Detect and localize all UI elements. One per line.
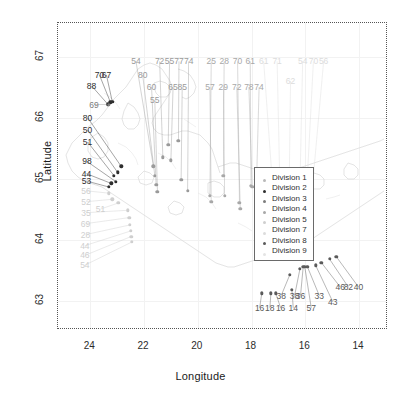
- point-value-label: 72: [155, 57, 164, 66]
- point-value-label: 36: [296, 291, 305, 300]
- point-value-label: 56: [319, 57, 328, 66]
- leader-line: [171, 87, 173, 160]
- point-value-label: 54: [298, 57, 307, 66]
- point-value-label: 55: [165, 57, 174, 66]
- x-tick-label: 20: [185, 340, 209, 351]
- leader-line: [312, 61, 324, 190]
- point-value-label: 70: [309, 57, 318, 66]
- x-tick-label: 22: [131, 340, 155, 351]
- point-value-label: 25: [207, 57, 216, 66]
- point-value-label: 61: [259, 57, 268, 66]
- leader-line: [85, 242, 132, 265]
- legend-item[interactable]: Division 9: [259, 246, 307, 257]
- point-value-label: 70: [233, 57, 242, 66]
- point-value-label: 35: [81, 208, 90, 217]
- point-value-label: 54: [131, 57, 140, 66]
- point-value-label: 57: [307, 304, 316, 313]
- point-value-label: 80: [83, 113, 92, 122]
- legend-item-label: Division 5: [272, 215, 307, 224]
- point-value-label: 65: [168, 83, 177, 92]
- legend-item-label: Division 2: [272, 183, 307, 192]
- point-value-label: 61: [245, 57, 254, 66]
- leader-line: [178, 61, 179, 140]
- x-tick-label: 18: [239, 340, 263, 351]
- point-value-label: 51: [83, 138, 92, 147]
- point-value-label: 43: [328, 298, 337, 307]
- point-value-label: 46: [80, 251, 89, 260]
- legend-item-label: Division 8: [272, 236, 307, 245]
- leader-line: [181, 87, 182, 180]
- point-value-label: 16: [276, 304, 285, 313]
- point-value-label: 50: [83, 126, 92, 135]
- legend-item-label: Division 4: [272, 204, 307, 213]
- figure-root: Latitude Longitude 6766656463 2422201816…: [0, 0, 401, 400]
- y-tick-label: 66: [34, 105, 45, 127]
- y-tick-label: 65: [34, 166, 45, 188]
- point-value-label: 60: [147, 83, 156, 92]
- plot-area: 8870676980505198445356525135692844465454…: [57, 22, 387, 329]
- leader-line: [160, 61, 163, 157]
- legend-item-label: Division 9: [272, 246, 307, 255]
- point-value-label: 14: [289, 304, 298, 313]
- leader-line: [250, 61, 251, 185]
- point-value-label: 67: [102, 71, 111, 80]
- point-value-label: 38: [276, 291, 285, 300]
- leader-line: [168, 61, 169, 145]
- point-value-label: 69: [81, 219, 90, 228]
- point-value-label: 74: [184, 57, 193, 66]
- point-value-label: 78: [244, 83, 253, 92]
- y-axis-title: Latitude: [41, 116, 53, 206]
- point-value-label: 51: [96, 205, 105, 214]
- legend-item-label: Division 1: [272, 173, 307, 182]
- x-axis-title: Longitude: [0, 370, 401, 382]
- legend-marker-icon: [259, 242, 270, 260]
- legend[interactable]: Division 1Division 2Division 3Division 4…: [254, 167, 314, 261]
- point-value-label: 28: [81, 230, 90, 239]
- point-value-label: 52: [81, 197, 90, 206]
- leader-line: [88, 130, 118, 173]
- point-value-label: 44: [80, 241, 89, 250]
- x-tick-label: 14: [346, 340, 370, 351]
- point-value-label: 98: [82, 157, 91, 166]
- y-tick-label: 64: [34, 227, 45, 249]
- point-value-label: 72: [232, 83, 241, 92]
- point-value-label: 80: [138, 71, 147, 80]
- x-tick-label: 24: [77, 340, 101, 351]
- leader-line: [264, 61, 272, 173]
- y-tick-label: 63: [34, 288, 45, 310]
- point-value-label: 33: [315, 291, 324, 300]
- legend-item-label: Division 3: [272, 194, 307, 203]
- legend-item-label: Division 7: [272, 225, 307, 234]
- point-value-label: 88: [87, 82, 96, 91]
- leader-line: [188, 61, 189, 190]
- point-value-label: 57: [205, 83, 214, 92]
- point-value-label: 55: [150, 96, 159, 105]
- leader-line: [155, 100, 158, 192]
- y-tick-label: 67: [34, 44, 45, 66]
- point-value-label: 62: [286, 77, 295, 86]
- leader-line: [86, 210, 128, 212]
- point-value-label: 16: [255, 304, 264, 313]
- point-value-label: 54: [80, 261, 89, 270]
- point-value-label: 53: [82, 177, 91, 186]
- point-value-label: 85: [177, 83, 186, 92]
- point-value-label: 29: [219, 83, 228, 92]
- point-value-label: 18: [265, 304, 274, 313]
- point-value-label: 82: [344, 283, 353, 292]
- leader-line: [88, 118, 122, 167]
- x-tick-label: 16: [292, 340, 316, 351]
- leader-line: [237, 87, 240, 209]
- point-value-label: 74: [254, 83, 263, 92]
- point-value-label: 77: [174, 57, 183, 66]
- point-value-label: 28: [219, 57, 228, 66]
- leader-line: [85, 218, 129, 224]
- leader-line: [277, 61, 280, 181]
- point-value-label: 40: [354, 283, 363, 292]
- point-value-label: 71: [272, 57, 281, 66]
- point-value-label: 69: [89, 100, 98, 109]
- point-value-label: 56: [81, 187, 90, 196]
